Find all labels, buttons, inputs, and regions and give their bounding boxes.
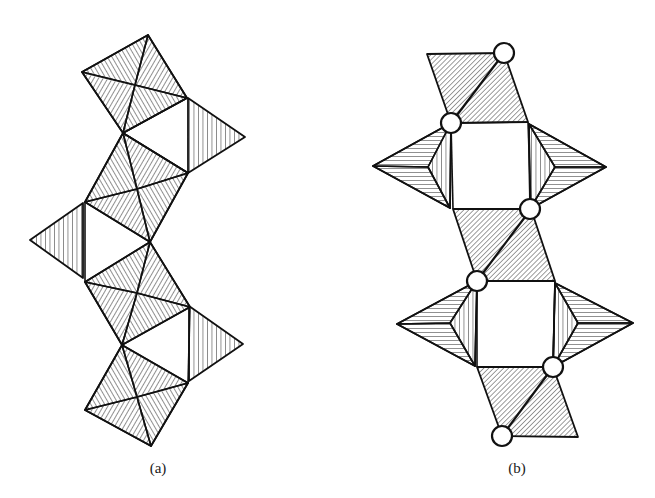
- side-triangle: [188, 98, 245, 173]
- side-triangle: [189, 306, 243, 381]
- panel-a-diagram: [30, 35, 245, 446]
- shared-oxygen-circle: [520, 199, 540, 219]
- panel-b-label: (b): [508, 460, 526, 477]
- panel-a-label: (a): [150, 460, 167, 477]
- side-triangle: [30, 203, 83, 278]
- shared-oxygen-circle: [441, 113, 461, 133]
- shared-oxygen-circle: [543, 357, 563, 377]
- mineral-structure-figure: [0, 0, 655, 498]
- shared-oxygen-circle: [492, 426, 512, 446]
- square-edge: [451, 123, 453, 209]
- panel-b-diagram: [373, 43, 633, 446]
- shared-oxygen-circle: [494, 43, 514, 63]
- square-edge: [451, 122, 528, 123]
- shared-oxygen-circle: [467, 271, 487, 291]
